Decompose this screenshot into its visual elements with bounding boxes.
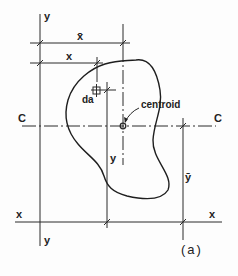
diagram-svg: y y x x C C x̄ x ȳ y da centroid (a) [0, 0, 238, 276]
label-c-right: C [214, 112, 222, 124]
label-centroid: centroid [141, 99, 180, 110]
label-y-dim: y [110, 152, 117, 164]
label-x-right: x [209, 208, 216, 220]
label-c-left: C [18, 112, 26, 124]
label-y-top: y [44, 10, 51, 22]
label-x-left: x [16, 208, 23, 220]
figure-caption: (a) [181, 242, 203, 257]
label-x-bar: x̄ [77, 30, 84, 42]
centroid-diagram: y y x x C C x̄ x ȳ y da centroid (a) [0, 0, 238, 276]
area-boundary [66, 60, 169, 199]
label-y-bottom: y [44, 234, 51, 246]
label-y-bar: ȳ [185, 171, 192, 183]
label-da: da [82, 94, 94, 105]
label-x-dim: x [66, 50, 73, 62]
